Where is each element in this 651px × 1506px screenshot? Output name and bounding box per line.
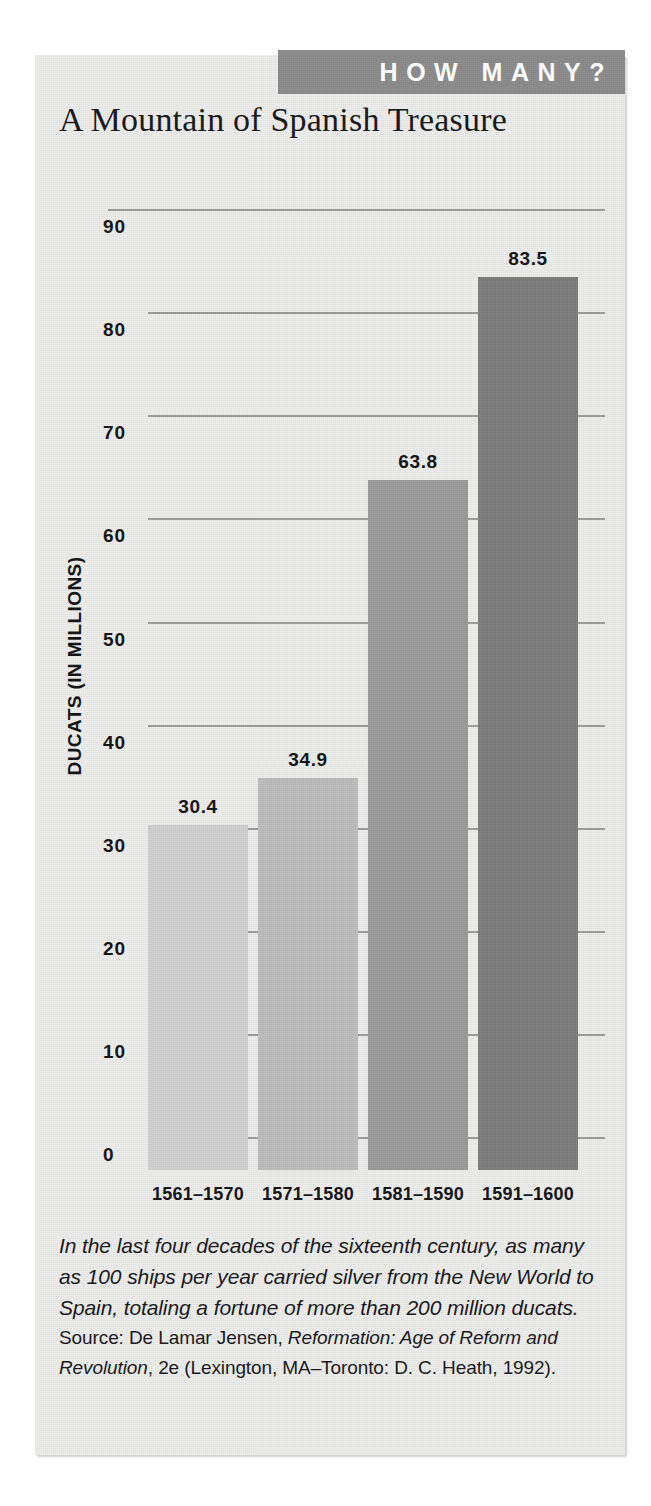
y-axis-title: DUCATS (IN MILLIONS) — [64, 516, 86, 816]
y-axis-tick-label: 40 — [103, 732, 143, 754]
bar-value-label: 30.4 — [138, 796, 258, 818]
x-axis-category-label: 1591–1600 — [463, 1184, 593, 1205]
y-axis-tick-label: 30 — [103, 835, 143, 857]
bar-value-label: 63.8 — [358, 451, 478, 473]
y-axis-tick-label: 80 — [103, 319, 143, 341]
caption-block: In the last four decades of the sixteent… — [59, 1230, 607, 1383]
bar-value-label: 34.9 — [248, 749, 368, 771]
source-prefix: Source: De Lamar Jensen, — [59, 1327, 288, 1348]
bar — [258, 778, 358, 1170]
y-axis-tick-label: 90 — [103, 216, 143, 238]
y-axis-tick-label: 50 — [103, 629, 143, 651]
y-axis-tick-label: 10 — [103, 1041, 143, 1063]
gridline-90 — [108, 209, 605, 211]
source-suffix: , 2e (Lexington, MA–Toronto: D. C. Heath… — [148, 1357, 556, 1378]
y-axis-tick-label: 0 — [103, 1144, 143, 1166]
y-axis-tick-label: 70 — [103, 422, 143, 444]
bar — [368, 480, 468, 1170]
bar — [148, 825, 248, 1170]
source-line: Source: De Lamar Jensen, Reformation: Ag… — [59, 1323, 607, 1383]
how-many-banner: HOW MANY? — [278, 50, 625, 94]
y-axis-tick-label: 20 — [103, 938, 143, 960]
figure-panel: HOW MANY? A Mountain of Spanish Treasure… — [35, 55, 625, 1455]
chart-title: A Mountain of Spanish Treasure — [59, 101, 507, 139]
caption-text: In the last four decades of the sixteent… — [59, 1230, 607, 1323]
bar-value-label: 83.5 — [468, 248, 588, 270]
bar — [478, 277, 578, 1170]
y-axis-tick-label: 60 — [103, 525, 143, 547]
